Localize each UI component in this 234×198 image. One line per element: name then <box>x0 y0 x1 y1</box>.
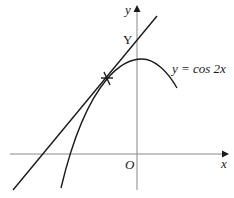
diagram: y Y y = cos 2x O x <box>0 0 234 198</box>
y-intercept-label: Y <box>123 33 132 46</box>
y-axis-label: y <box>125 3 131 16</box>
diagram-canvas <box>0 0 234 198</box>
origin-label: O <box>125 158 134 171</box>
x-axis-label: x <box>221 157 227 170</box>
tangent-line <box>13 16 157 190</box>
cos-curve <box>61 59 177 188</box>
curve-label: y = cos 2x <box>172 62 226 75</box>
y-axis-arrow-icon <box>134 5 141 12</box>
